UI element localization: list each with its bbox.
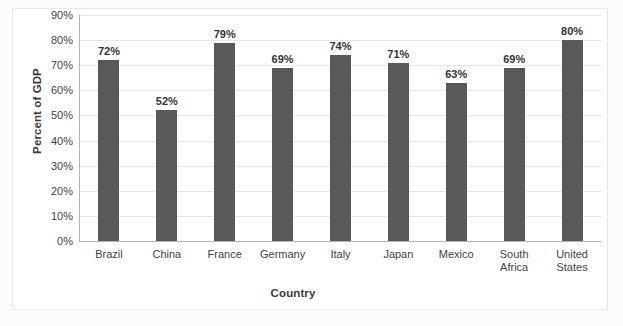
x-axis-tick-label: United States — [544, 248, 600, 274]
bar[interactable] — [388, 63, 409, 241]
y-axis-title: Percent of GDP — [31, 41, 43, 181]
x-axis-title: Country — [13, 287, 573, 299]
bar[interactable] — [562, 40, 583, 241]
y-axis-tick-label: 10% — [51, 210, 73, 222]
plot-area: 0%10%20%30%40%50%60%70%80%90% 72%Brazil5… — [79, 15, 601, 242]
bar-value-label: 71% — [370, 48, 426, 60]
y-axis-tick-label: 80% — [51, 34, 73, 46]
x-axis-tick-label: Japan — [370, 248, 426, 261]
y-axis-tick-label: 70% — [51, 59, 73, 71]
bar[interactable] — [156, 110, 177, 241]
y-axis-tick-label: 30% — [51, 160, 73, 172]
y-axis-tick-label: 50% — [51, 109, 73, 121]
x-axis-tick-label: South Africa — [486, 248, 542, 274]
bar[interactable] — [98, 60, 119, 241]
x-axis-tick-label: Italy — [313, 248, 369, 261]
y-axis-tick-label: 20% — [51, 185, 73, 197]
bar-value-label: 80% — [544, 25, 600, 37]
bar-value-label: 79% — [197, 28, 253, 40]
bar-value-label: 74% — [313, 40, 369, 52]
bar-value-label: 69% — [486, 53, 542, 65]
x-axis-tick-label: China — [139, 248, 195, 261]
x-axis-tick-label: Mexico — [428, 248, 484, 261]
y-axis-tick-label: 90% — [51, 9, 73, 21]
bar[interactable] — [446, 83, 467, 241]
bar-group[interactable]: 80%United States — [544, 15, 600, 241]
bar[interactable] — [214, 43, 235, 241]
bar-group[interactable]: 52%China — [139, 15, 195, 241]
bar-group[interactable]: 71%Japan — [370, 15, 426, 241]
y-axis-tick-label: 0% — [57, 235, 73, 247]
chart-frame: Percent of GDP 0%10%20%30%40%50%60%70%80… — [12, 8, 608, 310]
bar-group[interactable]: 74%Italy — [313, 15, 369, 241]
bar-value-label: 72% — [81, 45, 137, 57]
bar-value-label: 69% — [255, 53, 311, 65]
bar[interactable] — [272, 68, 293, 241]
bar[interactable] — [504, 68, 525, 241]
bar-group[interactable]: 63%Mexico — [428, 15, 484, 241]
x-axis-tick-label: Brazil — [81, 248, 137, 261]
x-axis-tick-label: Germany — [255, 248, 311, 261]
y-axis-tick-label: 40% — [51, 135, 73, 147]
bar[interactable] — [330, 55, 351, 241]
bar-group[interactable]: 79%France — [197, 15, 253, 241]
bar-group[interactable]: 69%Germany — [255, 15, 311, 241]
bars-layer: 72%Brazil52%China79%France69%Germany74%I… — [80, 15, 601, 241]
x-axis-tick-label: France — [197, 248, 253, 261]
y-axis-tick-label: 60% — [51, 84, 73, 96]
bar-value-label: 52% — [139, 95, 195, 107]
bar-group[interactable]: 69%South Africa — [486, 15, 542, 241]
bar-value-label: 63% — [428, 68, 484, 80]
bar-group[interactable]: 72%Brazil — [81, 15, 137, 241]
